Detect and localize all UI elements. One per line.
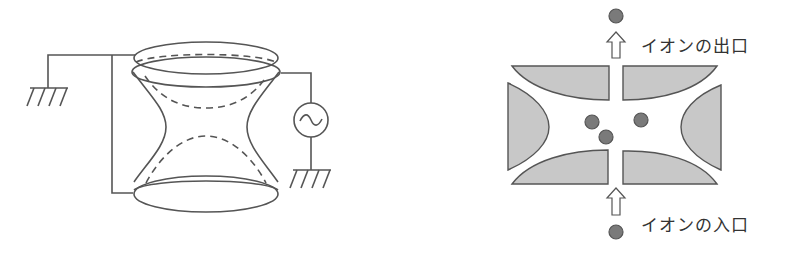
entrance-arrow-icon: [607, 188, 625, 215]
ion-trapped-3: [634, 113, 648, 127]
ion-entrance-label: イオンの入口: [641, 211, 749, 236]
right-ring-section: [681, 85, 721, 170]
ion-exit-label: イオンの出口: [641, 32, 749, 57]
ion-trapped-1: [585, 115, 599, 129]
bottom-endcap-electrode: [134, 176, 278, 212]
top-endcap-electrode: [134, 42, 278, 74]
exit-arrow-icon: [607, 32, 625, 58]
ring-electrode: [132, 57, 280, 183]
ion-exit: [609, 9, 623, 23]
ion-trapped-2: [599, 130, 613, 144]
ground-left-wiring: [27, 55, 135, 193]
left-figure-3d-trap: [27, 42, 331, 212]
ac-source-wiring: [281, 73, 331, 188]
left-ring-section: [508, 83, 549, 170]
ion-entrance: [609, 225, 623, 239]
